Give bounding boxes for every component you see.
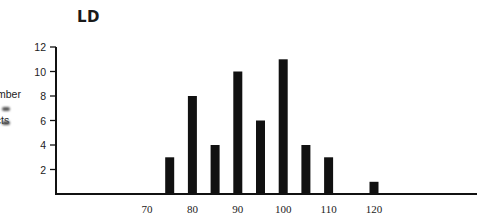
bars	[165, 59, 378, 194]
y-axis: 24681012	[34, 41, 56, 195]
x-tick-label: 80	[187, 203, 199, 215]
x-tick-label: 120	[366, 203, 383, 215]
x-tick-label: 110	[321, 203, 338, 215]
bar-80	[188, 96, 197, 194]
bar-85	[211, 145, 220, 194]
bar-105	[301, 145, 310, 194]
bar-chart: 24681012 708090100110120	[0, 0, 501, 220]
bar-120	[370, 182, 379, 194]
x-tick-label: 90	[232, 203, 244, 215]
x-tick-label: 70	[142, 203, 154, 215]
y-tick-label: 6	[40, 115, 46, 127]
bar-90	[233, 72, 242, 195]
y-tick-label: 8	[40, 90, 46, 102]
bar-110	[324, 157, 333, 194]
x-tick-label: 100	[275, 203, 292, 215]
bar-75	[165, 157, 174, 194]
bar-95	[256, 121, 265, 195]
bar-100	[279, 59, 288, 194]
y-tick-label: 2	[40, 164, 46, 176]
y-tick-label: 4	[40, 139, 46, 151]
y-tick-label: 10	[34, 66, 46, 78]
y-tick-label: 12	[34, 41, 46, 53]
x-axis: 708090100110120	[55, 194, 477, 215]
